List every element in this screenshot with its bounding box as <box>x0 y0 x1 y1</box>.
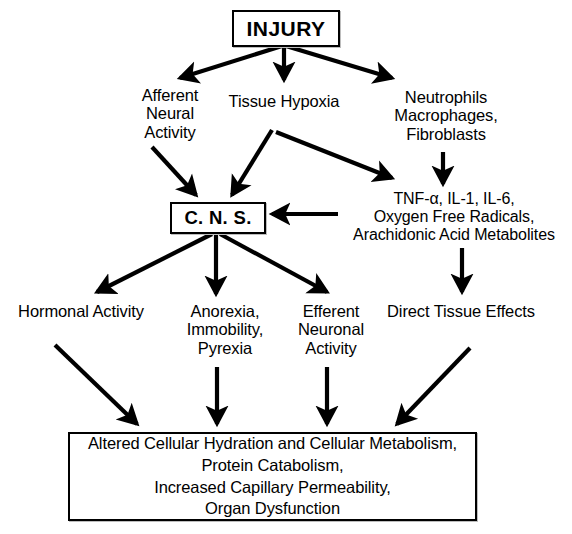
arrow-hypoxia-to-mediators <box>276 132 392 178</box>
node-efferent-neuronal-activity: Efferent Neuronal Activity <box>288 302 374 357</box>
node-tissue-hypoxia: Tissue Hypoxia <box>218 92 350 110</box>
arrow-afferent-to-cns <box>152 147 196 195</box>
arrow-cns-to-hormonal <box>97 234 212 292</box>
node-inflammatory-mediators: TNF-α, IL-1, IL-6, Oxygen Free Radicals,… <box>338 190 570 244</box>
node-neutrophils-macrophages-fibroblasts: Neutrophils Macrophages, Fibroblasts <box>380 88 512 143</box>
arrow-hormonal-to-outcome <box>55 345 137 424</box>
arrow-injury-to-afferent <box>180 46 282 78</box>
node-cns: C. N. S. <box>170 202 266 234</box>
flowchart-canvas: INJURY Afferent Neural Activity Tissue H… <box>0 0 572 534</box>
node-hormonal-activity: Hormonal Activity <box>8 302 154 320</box>
node-outcome-label: Altered Cellular Hydration and Cellular … <box>70 433 475 520</box>
node-afferent-neural-activity: Afferent Neural Activity <box>118 86 222 141</box>
node-injury-label: INJURY <box>246 17 325 41</box>
node-injury: INJURY <box>232 10 340 47</box>
arrow-hypoxia-to-cns <box>232 130 272 195</box>
node-direct-tissue-effects: Direct Tissue Effects <box>382 302 540 320</box>
arrow-injury-to-neutrophils <box>286 46 392 78</box>
node-anorexia-immobility-pyrexia: Anorexia, Immobility, Pyrexia <box>170 302 280 357</box>
node-cns-label: C. N. S. <box>184 208 251 229</box>
node-systemic-outcome: Altered Cellular Hydration and Cellular … <box>68 432 477 521</box>
arrow-cns-to-efferent <box>220 234 327 292</box>
arrow-direct-to-outcome <box>397 348 470 424</box>
